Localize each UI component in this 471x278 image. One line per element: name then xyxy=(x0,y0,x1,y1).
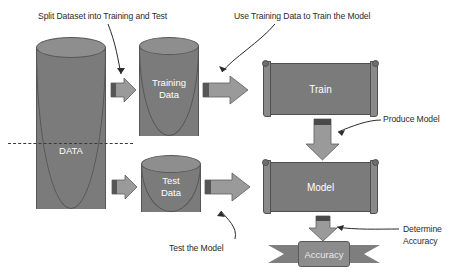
annotation-determine-accuracy-line1: Determine xyxy=(403,224,442,235)
leader-test-the-model xyxy=(221,211,236,239)
node-data-label: DATA xyxy=(36,145,106,157)
node-accuracy-ribbon: Accuracy xyxy=(268,241,380,267)
connector-model-to-accuracy xyxy=(309,216,337,241)
cylinder-top-ellipse xyxy=(36,37,106,58)
connector-training-to-train xyxy=(203,76,248,104)
annotation-produce-model: Produce Model xyxy=(383,114,440,125)
node-data-cylinder: DATA xyxy=(36,37,106,219)
diagram-canvas: Split Dataset into Training and Test Use… xyxy=(0,0,471,278)
leader-produce-model xyxy=(338,120,381,132)
connector-data-to-training xyxy=(111,78,136,102)
scroll-knob-left xyxy=(262,159,269,166)
node-training-data-label-line2: Data xyxy=(139,89,199,101)
node-model-label: Model xyxy=(261,182,380,193)
node-test-data-cylinder: Test Data xyxy=(141,155,201,221)
annotation-use-training-data: Use Training Data to Train the Model xyxy=(234,11,370,22)
node-accuracy-label: Accuracy xyxy=(268,249,380,260)
connector-test-to-model xyxy=(205,173,250,201)
node-train-label: Train xyxy=(261,84,380,95)
node-train-scroll: Train xyxy=(261,61,380,117)
scroll-knob-left xyxy=(262,60,269,67)
node-training-data-cylinder: Training Data xyxy=(139,37,199,145)
annotation-determine-accuracy-line2: Accuracy xyxy=(403,236,438,247)
connector-train-to-model xyxy=(306,119,339,160)
connector-data-to-test xyxy=(112,175,137,199)
scroll-knob-right xyxy=(372,60,379,67)
scroll-knob-right xyxy=(372,159,379,166)
leader-split-dataset xyxy=(108,24,121,74)
node-model-scroll: Model xyxy=(261,160,380,214)
split-dashed-line xyxy=(8,143,133,144)
annotation-test-the-model: Test the Model xyxy=(169,243,224,254)
cylinder-top-ellipse xyxy=(141,155,201,173)
node-test-data-label-line2: Data xyxy=(141,187,201,199)
annotation-split-dataset: Split Dataset into Training and Test xyxy=(38,11,167,22)
leader-determine-accuracy xyxy=(337,227,399,229)
node-training-data-label-line1: Training xyxy=(139,77,199,89)
node-test-data-label-line1: Test xyxy=(141,175,201,187)
cylinder-top-ellipse xyxy=(139,37,199,55)
